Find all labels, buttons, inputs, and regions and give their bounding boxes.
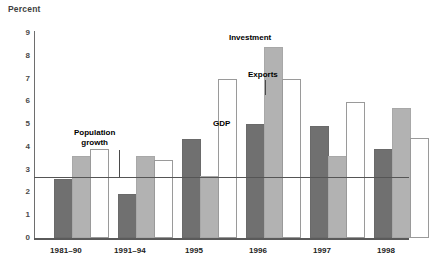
bar-investment [200, 176, 219, 238]
bar-gdp [246, 124, 265, 238]
annotation-population-growth-line1: Population [74, 128, 115, 137]
y-tick-4: 4 [8, 142, 30, 151]
bar-exports [410, 138, 429, 238]
y-tick-7: 7 [8, 74, 30, 83]
y-tick-2: 2 [8, 187, 30, 196]
bar-group-1998 [374, 33, 428, 238]
bar-gdp [374, 149, 393, 238]
annotation-leader-population-growth [119, 150, 120, 177]
y-tick-5: 5 [8, 119, 30, 128]
x-axis-line [34, 238, 409, 240]
bar-investment [392, 108, 411, 238]
x-tick-1995: 1995 [162, 246, 226, 255]
bar-investment [72, 156, 91, 238]
y-tick-6: 6 [8, 96, 30, 105]
bar-gdp [118, 194, 137, 238]
bar-group-1995 [182, 33, 236, 238]
bar-investment [136, 156, 155, 238]
y-tick-8: 8 [8, 51, 30, 60]
y-tick-9: 9 [8, 28, 30, 37]
bar-group-1991-94 [118, 33, 172, 238]
annotation-population-growth: Population growth [74, 128, 115, 148]
annotation-investment: Investment [229, 33, 271, 43]
x-tick-1998: 1998 [354, 246, 418, 255]
annotation-exports: Exports [248, 70, 278, 80]
y-tick-3: 3 [8, 165, 30, 174]
bar-exports [154, 160, 173, 238]
x-tick-1981-90: 1981–90 [34, 246, 98, 255]
y-tick-1: 1 [8, 210, 30, 219]
y-axis-tick-labels: 9 8 7 6 5 4 3 2 1 0 [0, 0, 30, 268]
population-growth-reference-line [34, 177, 409, 178]
bar-exports [90, 149, 109, 238]
x-tick-1991-94: 1991–94 [98, 246, 162, 255]
bar-exports [282, 79, 301, 238]
bar-gdp [54, 179, 73, 238]
annotation-population-growth-line2: growth [81, 138, 108, 147]
bar-group-1997 [310, 33, 364, 238]
bar-exports [346, 102, 365, 238]
annotation-gdp: GDP [213, 119, 230, 129]
x-tick-1997: 1997 [290, 246, 354, 255]
y-tick-0: 0 [8, 233, 30, 242]
bar-group-1996 [246, 33, 300, 238]
annotation-leader-exports [265, 80, 266, 95]
x-tick-1996: 1996 [226, 246, 290, 255]
bar-gdp [310, 126, 329, 239]
bar-investment [328, 156, 347, 238]
bar-exports [218, 79, 237, 238]
bar-gdp [182, 139, 201, 238]
